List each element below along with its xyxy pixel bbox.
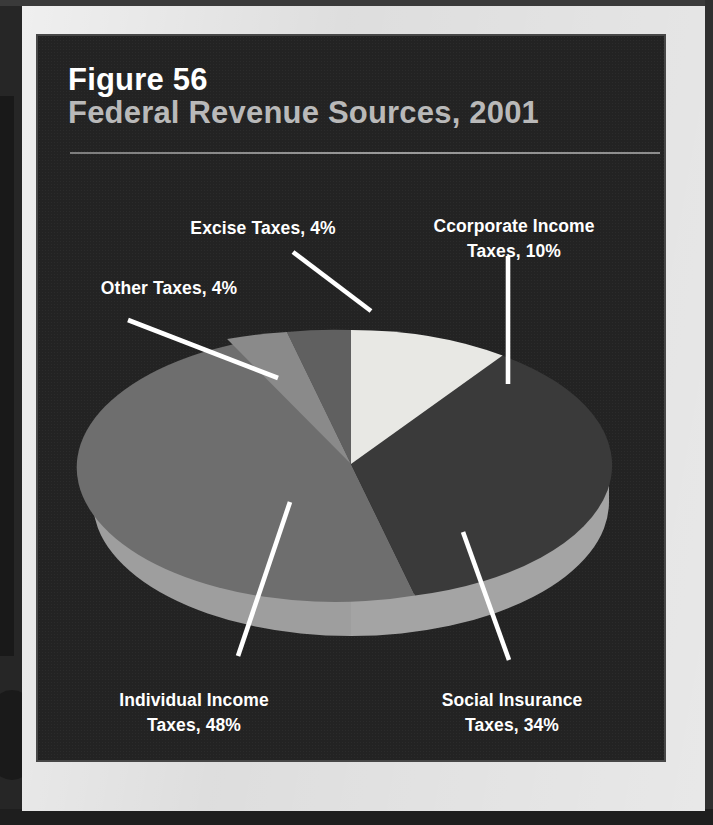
scan-edge-bottom	[0, 809, 713, 825]
label-corporate-line2: Taxes, 10%	[467, 241, 561, 261]
label-other-taxes: Other Taxes, 4%	[54, 276, 284, 301]
figure-number: Figure 56	[68, 64, 644, 96]
title-divider	[70, 152, 660, 154]
leader-line-excise	[293, 252, 371, 311]
pie-chart: Excise Taxes, 4% Other Taxes, 4% Ccorpor…	[38, 164, 664, 760]
label-excise-line1: Excise Taxes, 4%	[190, 218, 335, 238]
label-social-line1: Social Insurance	[442, 690, 583, 710]
label-social-line2: Taxes, 34%	[465, 715, 559, 735]
label-corporate-income-taxes: Ccorporate Income Taxes, 10%	[386, 214, 642, 264]
page-title: Federal Revenue Sources, 2001	[68, 97, 644, 130]
scan-edge-right	[705, 0, 713, 825]
label-individual-income-taxes: Individual Income Taxes, 48%	[66, 688, 322, 738]
label-social-insurance-taxes: Social Insurance Taxes, 34%	[384, 688, 640, 738]
scan-edge-left-dark	[0, 96, 14, 656]
label-individual-line2: Taxes, 48%	[147, 715, 241, 735]
label-individual-line1: Individual Income	[119, 690, 269, 710]
label-excise-taxes: Excise Taxes, 4%	[148, 216, 378, 241]
scanned-page: Figure 56 Federal Revenue Sources, 2001	[0, 0, 713, 825]
label-corporate-line1: Ccorporate Income	[433, 216, 594, 236]
label-other-line1: Other Taxes, 4%	[101, 278, 237, 298]
figure-title-block: Figure 56 Federal Revenue Sources, 2001	[68, 64, 644, 129]
figure-panel: Figure 56 Federal Revenue Sources, 2001	[36, 34, 666, 762]
